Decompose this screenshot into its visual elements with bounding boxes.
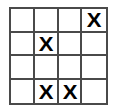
grid-cell-r3c1[interactable]: X: [35, 80, 59, 104]
diagram-canvas: X X X X: [0, 0, 117, 112]
cell-mark-x: X: [39, 81, 53, 102]
cell-mark-x: X: [39, 33, 53, 54]
grid-cell-r2c3[interactable]: [82, 56, 106, 80]
grid-cell-r3c0[interactable]: [11, 80, 35, 104]
cell-mark-x: X: [62, 81, 76, 102]
grid-cell-r0c1[interactable]: [35, 9, 59, 33]
grid-cell-r0c0[interactable]: [11, 9, 35, 33]
grid-cell-r3c3[interactable]: [82, 80, 106, 104]
grid-cell-r0c2[interactable]: [59, 9, 83, 33]
grid-cell-r3c2[interactable]: X: [59, 80, 83, 104]
grid-cell-r1c1[interactable]: X: [35, 33, 59, 57]
grid-cell-r2c0[interactable]: [11, 56, 35, 80]
grid-table: X X X X: [9, 7, 108, 105]
grid-cell-r2c2[interactable]: [59, 56, 83, 80]
grid-cell-r1c3[interactable]: [82, 33, 106, 57]
grid-cell-r0c3[interactable]: X: [82, 9, 106, 33]
grid-cell-r1c2[interactable]: [59, 33, 83, 57]
cell-mark-x: X: [87, 9, 101, 30]
grid-cell-r1c0[interactable]: [11, 33, 35, 57]
grid-cell-r2c1[interactable]: [35, 56, 59, 80]
